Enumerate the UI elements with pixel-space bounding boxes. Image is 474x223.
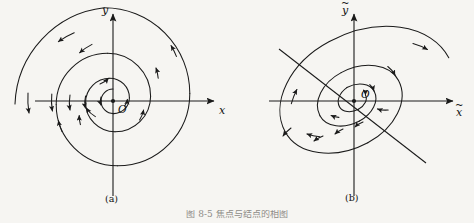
- phase-portrait-panel-b: ~y ~x O (b): [237, 0, 474, 223]
- spiral-arc: [86, 102, 115, 131]
- tilde-accent-y: ~: [341, 0, 349, 8]
- spiral-arc: [101, 101, 114, 114]
- flow-arrow: [58, 33, 74, 42]
- flow-arrow: [171, 46, 176, 57]
- origin-label: O: [118, 104, 127, 115]
- spiral-arc: [258, 41, 357, 131]
- flow-arrow: [69, 95, 70, 110]
- phase-portrait-panel-a: y x O (a): [0, 0, 237, 223]
- flow-arrow: [377, 105, 388, 115]
- y-axis-label: y: [102, 5, 108, 16]
- flow-arrow: [331, 113, 339, 121]
- panel-b-svg: [237, 0, 474, 223]
- x-axis-label: ~x: [456, 107, 462, 118]
- flow-arrow: [28, 93, 29, 113]
- spiral-arc: [56, 53, 107, 104]
- figure-caption: 图 8-5 焦点与结点的相图: [0, 210, 474, 223]
- origin-point: [352, 99, 356, 103]
- panel-a-axis-crossing-arrows: [28, 93, 101, 113]
- origin-point: [111, 99, 115, 103]
- spiral-arc: [86, 78, 110, 102]
- flow-arrow: [307, 129, 320, 141]
- spiral-arc: [307, 73, 355, 116]
- flow-arrow: [413, 39, 427, 54]
- panel-b-axes: [269, 14, 453, 196]
- flow-arrow: [335, 129, 343, 134]
- spiral-arc: [56, 105, 117, 166]
- panel-a-spiral-curves: [15, 8, 190, 166]
- spiral-arc: [104, 8, 190, 94]
- origin-label: O: [361, 89, 370, 100]
- figure-container: y x O (a): [0, 0, 474, 223]
- spiral-arc: [101, 89, 113, 101]
- panel-caption-b: (b): [345, 193, 359, 203]
- tilde-accent-x: ~: [455, 100, 463, 110]
- panel-a-flow-arrows: [58, 33, 176, 132]
- flow-arrow: [58, 121, 62, 132]
- flow-arrow: [156, 68, 158, 78]
- flow-arrow: [287, 89, 302, 103]
- flow-arrow: [79, 115, 80, 124]
- y-axis-label: ~y: [342, 5, 348, 16]
- flow-arrow: [80, 44, 92, 52]
- eigenvector-line: [279, 49, 426, 163]
- spiral-arc: [108, 53, 151, 96]
- flow-arrow: [51, 94, 52, 111]
- panel-caption-a: (a): [105, 194, 118, 204]
- x-axis-label: x: [219, 105, 225, 116]
